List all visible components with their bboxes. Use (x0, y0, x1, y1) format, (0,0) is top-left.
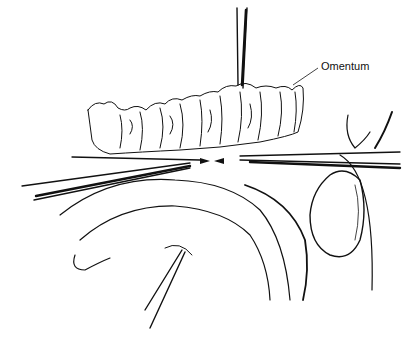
omentum (88, 83, 303, 154)
top-grasper (237, 8, 247, 88)
left-graspers (22, 157, 200, 200)
abdominal-wall (340, 155, 372, 290)
tissue-separation-point (200, 158, 224, 164)
spleen (310, 171, 364, 257)
retractor-hand (347, 112, 392, 148)
colon (60, 179, 307, 300)
surgical-drawing (0, 0, 413, 338)
omentum-leader-line (293, 68, 318, 85)
illustration: Omentum (0, 0, 413, 338)
lower-grasper (145, 245, 192, 328)
right-graspers (240, 152, 400, 168)
omentum-label: Omentum (321, 60, 369, 72)
